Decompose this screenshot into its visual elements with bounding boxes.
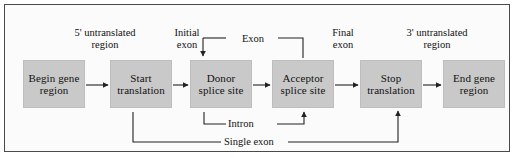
node-stop-translation[interactable]: Stop translation — [360, 60, 422, 108]
node-end-gene-region[interactable]: End gene region — [443, 60, 505, 108]
gene-structure-diagram: 5' untranslated region Initial exon Exon… — [0, 0, 517, 158]
node-begin-gene-region-label: Begin gene region — [24, 72, 84, 97]
bottom-label-intron: Intron — [228, 118, 254, 130]
node-donor-splice-site[interactable]: Donor splice site — [190, 60, 252, 108]
node-donor-splice-site-label: Donor splice site — [191, 72, 251, 97]
top-label-exon: Exon — [230, 33, 276, 45]
node-stop-translation-label: Stop translation — [361, 72, 421, 97]
top-label-final-exon: Final exon — [312, 27, 374, 51]
node-acceptor-splice-site[interactable]: Acceptor splice site — [272, 60, 334, 108]
node-start-translation-label: Start translation — [111, 72, 171, 97]
node-start-translation[interactable]: Start translation — [110, 60, 172, 108]
node-end-gene-region-label: End gene region — [444, 72, 504, 97]
top-label-three-prime-untranslated-region: 3' untranslated region — [374, 27, 500, 51]
node-acceptor-splice-site-label: Acceptor splice site — [273, 72, 333, 97]
top-label-five-prime-untranslated-region: 5' untranslated region — [40, 27, 170, 51]
node-begin-gene-region[interactable]: Begin gene region — [23, 60, 85, 108]
top-label-initial-exon: Initial exon — [152, 27, 222, 51]
bottom-label-single-exon: Single exon — [224, 136, 274, 148]
